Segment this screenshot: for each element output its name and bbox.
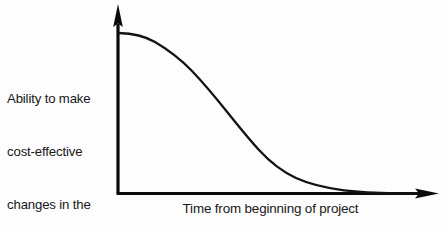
y-axis-label-line-1: Ability to make	[7, 90, 119, 108]
y-axis-label-line-2: cost-effective	[7, 143, 119, 161]
y-axis-label-line-3: changes in the	[7, 196, 119, 214]
ability-to-change-curve	[119, 33, 419, 193]
chart-figure: Ability to make cost-effective changes i…	[0, 0, 447, 231]
x-axis-label: Time from beginning of project	[118, 200, 423, 217]
y-axis-label: Ability to make cost-effective changes i…	[7, 55, 119, 231]
arrow-up-icon	[113, 4, 123, 27]
